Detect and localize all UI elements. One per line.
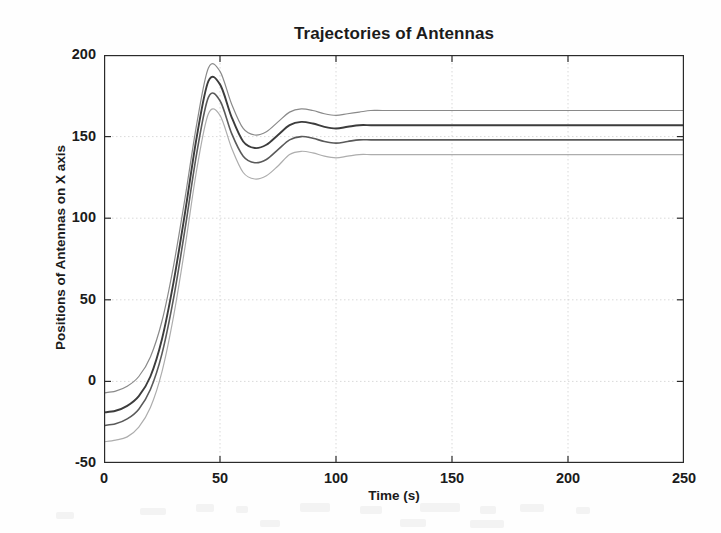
x-tick-label: 100 [306, 471, 366, 486]
scan-artifact [576, 507, 590, 514]
scan-artifact [360, 506, 382, 514]
y-tick-label: 200 [40, 47, 96, 62]
scan-artifact [470, 520, 504, 528]
y-tick-label: 0 [40, 373, 96, 388]
x-tick-label: 250 [654, 471, 714, 486]
scan-artifact [480, 506, 496, 514]
scan-artifact [420, 503, 460, 512]
y-tick-label: 50 [40, 292, 96, 307]
scan-artifact [520, 504, 544, 512]
scan-artifact [56, 512, 74, 519]
scan-artifact [300, 503, 330, 512]
figure-canvas: Trajectories of Antennas Positions of An… [0, 0, 721, 533]
y-tick-label: 100 [40, 210, 96, 225]
scan-artifact [236, 506, 248, 513]
x-tick-label: 50 [190, 471, 250, 486]
page-title: Trajectories of Antennas [104, 24, 684, 44]
y-tick-label: -50 [40, 455, 96, 470]
x-tick-label: 0 [74, 471, 134, 486]
scan-artifact [260, 520, 280, 527]
scan-artifact [140, 508, 166, 515]
x-tick-label: 150 [422, 471, 482, 486]
trajectories-line-chart [104, 55, 684, 463]
x-axis-label: Time (s) [104, 488, 684, 503]
plot-background [104, 55, 684, 463]
x-tick-label: 200 [538, 471, 598, 486]
scan-artifact [400, 519, 426, 527]
y-tick-label: 150 [40, 129, 96, 144]
scan-artifact [196, 504, 214, 512]
plot-area [104, 55, 684, 463]
